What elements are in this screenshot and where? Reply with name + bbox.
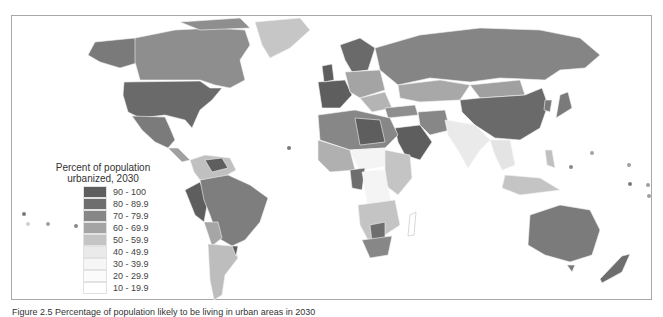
legend-label: 60 - 69.9 (113, 223, 149, 233)
region-tasmania (567, 265, 575, 272)
region-uk (322, 64, 334, 82)
legend-swatch (83, 246, 107, 258)
region-east-africa (385, 150, 412, 195)
legend-item: 30 - 39.9 (83, 258, 158, 270)
legend-title-line1: Percent of population (48, 162, 158, 173)
legend-label: 10 - 19.9 (113, 283, 149, 293)
legend-swatch (83, 258, 107, 270)
region-korea (544, 100, 552, 112)
legend-item: 10 - 19.9 (83, 282, 158, 294)
region-madagascar (408, 212, 416, 236)
legend-swatch (83, 222, 107, 234)
region-philippines (545, 150, 555, 168)
region-central-asia (398, 80, 470, 102)
region-central-africa (350, 168, 365, 190)
figure-caption: Figure 2.5 Percentage of population like… (12, 307, 315, 317)
legend-item: 90 - 100 (83, 186, 158, 198)
region-western-europe (318, 80, 352, 108)
region-central-america (168, 148, 190, 162)
region-russia (375, 28, 600, 85)
legend-label: 80 - 89.9 (113, 199, 149, 209)
legend-title-line2: urbanized, 2030 (48, 173, 158, 184)
legend-swatch (83, 198, 107, 210)
legend-item: 20 - 29.9 (83, 270, 158, 282)
region-japan (556, 92, 572, 118)
region-alaska (88, 38, 140, 68)
region-australia (528, 205, 600, 262)
legend-item: 70 - 79.9 (83, 210, 158, 222)
region-mexico (132, 116, 175, 148)
region-libya (355, 118, 385, 145)
legend-rows: 90 - 100 80 - 89.9 70 - 79.9 60 - 69.9 5… (83, 186, 158, 294)
legend-label: 40 - 49.9 (113, 247, 149, 257)
legend-swatch (83, 210, 107, 222)
region-southeast-asia (490, 140, 515, 170)
region-greenland (255, 18, 310, 58)
region-indonesia (502, 175, 560, 195)
region-canada-arctic (180, 18, 250, 30)
region-argentina (208, 244, 238, 300)
legend-item: 40 - 49.9 (83, 246, 158, 258)
region-new-zealand (600, 254, 630, 283)
legend-label: 70 - 79.9 (113, 211, 149, 221)
legend-label: 20 - 29.9 (113, 271, 149, 281)
legend-swatch (83, 234, 107, 246)
legend-swatch (83, 186, 107, 198)
legend-label: 90 - 100 (113, 187, 146, 197)
map-legend: Percent of population urbanized, 2030 90… (48, 162, 158, 294)
legend-title: Percent of population urbanized, 2030 (48, 162, 158, 184)
legend-item: 50 - 59.9 (83, 234, 158, 246)
legend-item: 80 - 89.9 (83, 198, 158, 210)
region-south-africa (362, 236, 392, 258)
legend-label: 30 - 39.9 (113, 259, 149, 269)
legend-swatch (83, 270, 107, 282)
legend-item: 60 - 69.9 (83, 222, 158, 234)
region-canada (135, 28, 250, 88)
legend-swatch (83, 282, 107, 294)
region-sahel (350, 148, 390, 170)
region-scandinavia (340, 38, 375, 72)
region-congo (362, 170, 390, 205)
legend-label: 50 - 59.9 (113, 235, 149, 245)
